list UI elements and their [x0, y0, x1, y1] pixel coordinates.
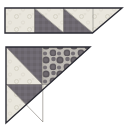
quilt-piecing-figure: Quilt block piecing diagram [0, 0, 129, 140]
top-strip-unit [5, 8, 122, 33]
bottom-block-bottom-right-light [42, 84, 91, 124]
quilt-diagram-svg [0, 0, 129, 140]
top-block-1-light [5, 8, 35, 33]
bottom-triangle-unit [6, 47, 91, 124]
